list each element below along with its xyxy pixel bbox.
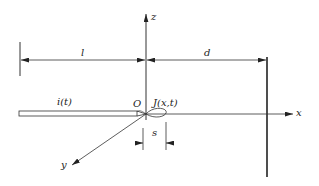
length-l-label: l — [81, 48, 84, 58]
current-label: i(t) — [57, 97, 72, 107]
current-rod — [19, 111, 137, 116]
diagram-canvas: z x y l d i(t) O J(x,t) s — [0, 0, 319, 186]
x-axis-label: x — [296, 108, 302, 118]
origin-label: O — [133, 99, 141, 109]
z-axis-label: z — [151, 12, 156, 22]
current-density-label: J(x,t) — [153, 98, 178, 108]
offset-s-label: s — [152, 128, 157, 138]
diagram-svg — [0, 0, 319, 186]
current-loop — [146, 108, 166, 117]
y-axis-label: y — [61, 160, 67, 170]
y-axis — [72, 114, 146, 165]
distance-d-label: d — [204, 48, 210, 58]
